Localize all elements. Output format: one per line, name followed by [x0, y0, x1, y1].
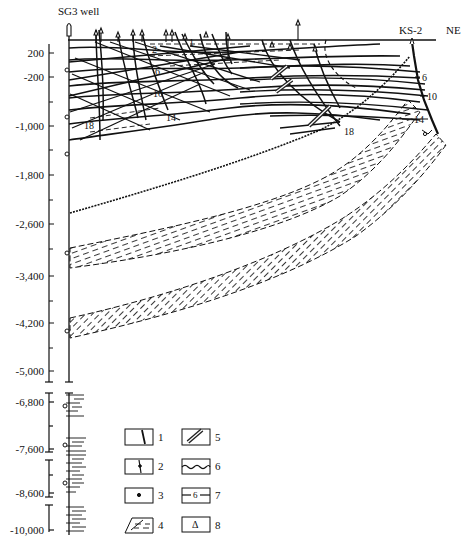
depth-axis: [45, 44, 54, 532]
depth-tick-label: -7,600: [0, 444, 44, 455]
legend-horizon-6-text: 6: [193, 490, 198, 501]
horizon-label: 14: [166, 112, 176, 123]
well-label-sg3: SG3 well: [58, 6, 99, 17]
depth-tick-label: 200: [0, 48, 44, 59]
horizon-label: 10: [427, 91, 437, 102]
depth-tick-label: -2,600: [0, 219, 44, 230]
horizon-label: 18: [344, 126, 354, 137]
depth-tick-label: -1,800: [0, 170, 44, 181]
depth-tick-label: -200: [0, 72, 44, 83]
geologic-cross-section: SG3 well KS-2 NE 200 -200 -1,000 -1,800 …: [0, 0, 468, 549]
legend-num-7: 7: [215, 490, 221, 501]
legend-num-5: 5: [215, 432, 221, 443]
depth-tick-label: -4,200: [0, 318, 44, 329]
depth-tick-label: -6,800: [0, 397, 44, 408]
legend-num-1: 1: [158, 432, 164, 443]
triangle-icon: Δ: [192, 519, 198, 530]
depth-tick-label: -8,600: [0, 488, 44, 499]
horizon-label: 10: [153, 88, 163, 99]
upper-strata: [69, 20, 428, 140]
horizon-label: 6: [422, 72, 427, 83]
legend-num-8: 8: [215, 520, 221, 531]
well-label-ks2: KS-2: [399, 25, 422, 36]
legend-num-4: 4: [158, 520, 164, 531]
depth-tick-label: -3,400: [0, 271, 44, 282]
depth-tick-label: -1,000: [0, 121, 44, 132]
legend-num-2: 2: [158, 461, 164, 472]
legend-num-6: 6: [215, 461, 221, 472]
legend-num-3: 3: [158, 490, 164, 501]
depth-tick-label: -5,000: [0, 366, 44, 377]
horizon-label: 14: [414, 114, 424, 125]
horizon-label: 1: [189, 37, 194, 48]
direction-label: NE: [446, 25, 461, 36]
dashed-beds: [70, 100, 446, 338]
horizon-label: 2: [152, 44, 157, 55]
horizon-label: 18: [84, 120, 94, 131]
depth-tick-label: -10,000: [0, 525, 44, 536]
section-drawing: [0, 0, 468, 549]
horizon-label: 6: [155, 66, 160, 77]
